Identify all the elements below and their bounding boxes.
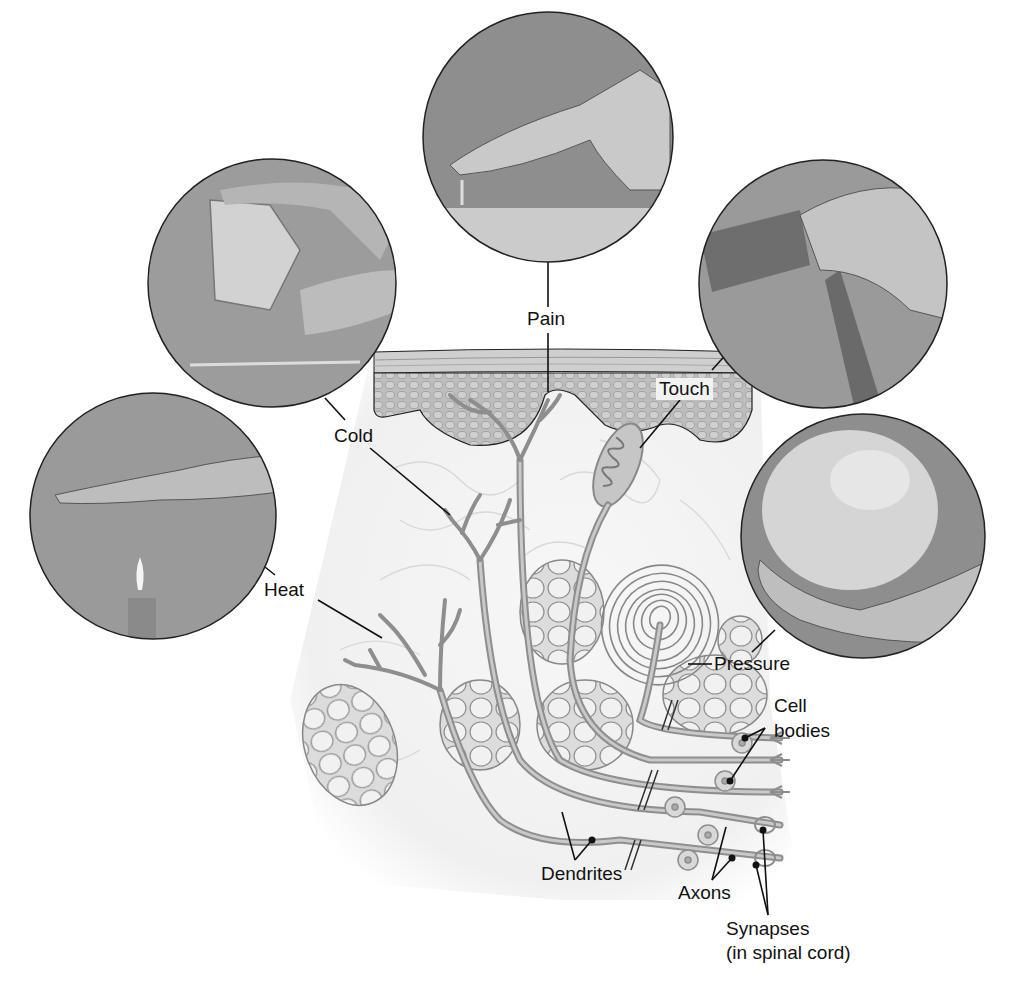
photo-pressure bbox=[740, 414, 990, 664]
photo-heat bbox=[25, 390, 285, 650]
label-cold: Cold bbox=[334, 425, 373, 447]
label-bodies: bodies bbox=[774, 720, 830, 742]
label-dendrites: Dendrites bbox=[541, 863, 622, 885]
label-spinal-cord: (in spinal cord) bbox=[726, 942, 851, 964]
label-synapses: Synapses bbox=[726, 918, 809, 940]
diagram-graphics bbox=[0, 0, 1011, 1002]
label-pain: Pain bbox=[527, 308, 565, 330]
label-cell: Cell bbox=[774, 695, 807, 717]
label-pressure: Pressure bbox=[714, 653, 790, 675]
skin-receptor-diagram: Pain Cold Heat Touch Pressure Cell bodie… bbox=[0, 0, 1011, 1002]
label-axons: Axons bbox=[678, 882, 731, 904]
label-touch: Touch bbox=[656, 378, 713, 400]
label-heat: Heat bbox=[264, 579, 304, 601]
